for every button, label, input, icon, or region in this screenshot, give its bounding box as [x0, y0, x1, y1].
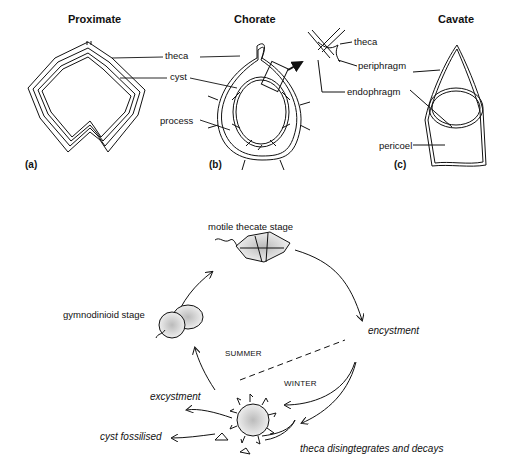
label-periphragm: periphragm — [358, 61, 406, 71]
wall-detail-drawing — [308, 28, 357, 92]
label-winter: WINTER — [284, 380, 317, 388]
panel-letter-c: (c) — [394, 160, 406, 170]
chorate-cyst-drawing — [208, 44, 310, 170]
label-excystment: excystment — [150, 392, 201, 402]
label-theca: theca — [165, 51, 188, 61]
panel-title-cavate: Cavate — [438, 14, 474, 25]
panel-letter-a: (a) — [25, 160, 37, 170]
label-summer: SUMMER — [225, 350, 262, 358]
label-encystment: encystment — [368, 326, 419, 336]
diagram-artwork — [0, 0, 505, 466]
label-process: process — [160, 116, 193, 126]
label-theca-decays: theca disingtegrates and decays — [300, 444, 443, 454]
panel-title-proximate: Proximate — [68, 14, 121, 25]
cavate-cyst-drawing — [410, 45, 486, 166]
label-motile-thecate-stage: motile thecate stage — [208, 222, 293, 232]
panel-title-chorate: Chorate — [234, 14, 276, 25]
label-endophragm: endophragm — [347, 87, 400, 97]
label-detail-theca: theca — [354, 37, 377, 47]
label-gymnodinioid-stage: gymnodinioid stage — [63, 310, 145, 320]
life-cycle-arrows — [172, 250, 362, 438]
motile-thecate-cell — [215, 232, 290, 262]
panel-letter-b: (b) — [209, 160, 222, 170]
resting-cyst — [215, 394, 295, 454]
label-pericoel: pericoel — [379, 141, 412, 151]
gymnodinioid-cell — [156, 305, 203, 338]
label-cyst: cyst — [170, 72, 187, 82]
label-cyst-fossilised: cyst fossilised — [100, 432, 162, 442]
